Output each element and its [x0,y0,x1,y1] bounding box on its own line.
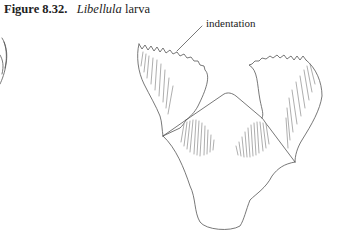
prementum [163,136,295,229]
right-palp [249,55,322,162]
left-palp [138,44,208,136]
left-partial-drawing [0,38,7,84]
labium-drawing [0,0,338,233]
median-lobe [163,93,295,162]
left-setae [181,120,214,156]
indentation-pointer [177,26,202,51]
right-setae [236,122,269,157]
